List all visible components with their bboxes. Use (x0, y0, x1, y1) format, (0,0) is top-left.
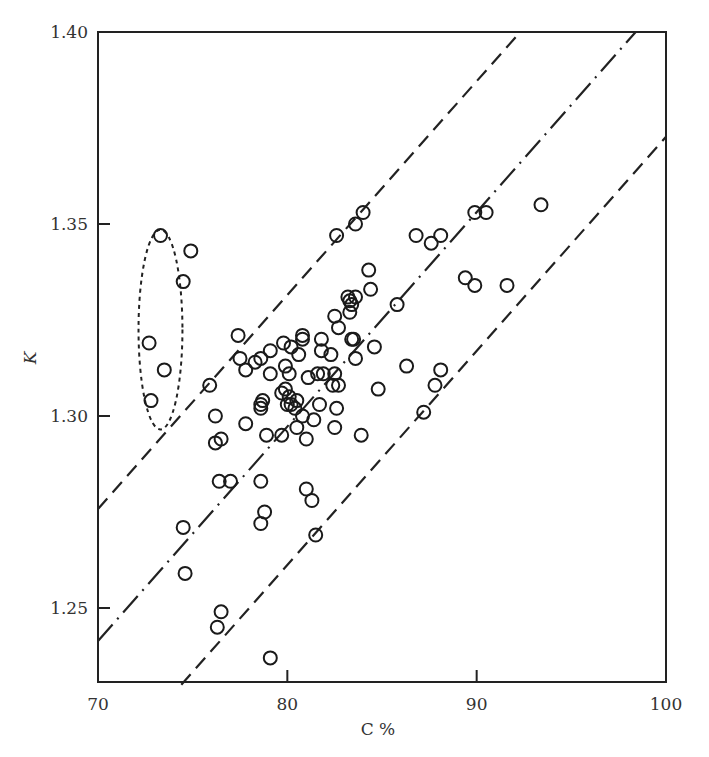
data-point (275, 387, 288, 400)
data-point (434, 363, 447, 376)
data-point (292, 348, 305, 361)
data-point (177, 275, 190, 288)
x-tick-label: 70 (87, 694, 109, 714)
data-point (158, 363, 171, 376)
data-point (300, 433, 313, 446)
data-point (239, 417, 252, 430)
data-point (368, 340, 381, 353)
data-point (254, 517, 267, 530)
plot-frame (98, 32, 666, 682)
data-point (468, 279, 481, 292)
reference-lines (98, 32, 666, 685)
data-point (279, 383, 292, 396)
data-point (211, 621, 224, 634)
axis-ticks (98, 224, 477, 682)
data-points (143, 198, 548, 664)
y-tick-label: 1.25 (50, 598, 88, 618)
data-point (391, 298, 404, 311)
data-point (285, 340, 298, 353)
data-point (264, 651, 277, 664)
data-point (277, 337, 290, 350)
data-point (254, 475, 267, 488)
data-point (177, 521, 190, 534)
data-point (305, 494, 318, 507)
data-point (307, 413, 320, 426)
y-tick-label: 1.35 (50, 214, 88, 234)
data-point (309, 529, 322, 542)
y-axis-label: K (20, 350, 40, 365)
data-point (232, 329, 245, 342)
data-point (283, 367, 296, 380)
data-point (364, 283, 377, 296)
center-line (98, 32, 636, 641)
data-point (203, 379, 216, 392)
y-tick-label: 1.40 (50, 22, 88, 42)
data-point (330, 402, 343, 415)
x-tick-label: 100 (650, 694, 682, 714)
data-point (143, 337, 156, 350)
data-point (313, 398, 326, 411)
data-point (328, 421, 341, 434)
bound-line (98, 32, 520, 509)
data-point (215, 605, 228, 618)
data-point (410, 229, 423, 242)
data-point (275, 429, 288, 442)
data-point (434, 229, 447, 242)
data-point (349, 352, 362, 365)
data-point (372, 383, 385, 396)
data-point (362, 264, 375, 277)
data-point (154, 229, 167, 242)
data-point (264, 367, 277, 380)
data-point (145, 394, 158, 407)
data-point (179, 567, 192, 580)
scatter-chart: 7080901001.251.301.351.40 C % K (0, 0, 709, 757)
x-tick-label: 80 (277, 694, 299, 714)
y-tick-label: 1.30 (50, 406, 88, 426)
axis-tick-labels: 7080901001.251.301.351.40 (50, 22, 682, 714)
data-point (279, 360, 292, 373)
data-point (332, 321, 345, 334)
data-point (501, 279, 514, 292)
data-point (535, 198, 548, 211)
x-axis-label: C % (361, 719, 396, 739)
data-point (429, 379, 442, 392)
data-point (355, 429, 368, 442)
data-point (209, 410, 222, 423)
data-point (260, 429, 273, 442)
data-point (184, 244, 197, 257)
data-point (400, 360, 413, 373)
x-tick-label: 90 (466, 694, 488, 714)
